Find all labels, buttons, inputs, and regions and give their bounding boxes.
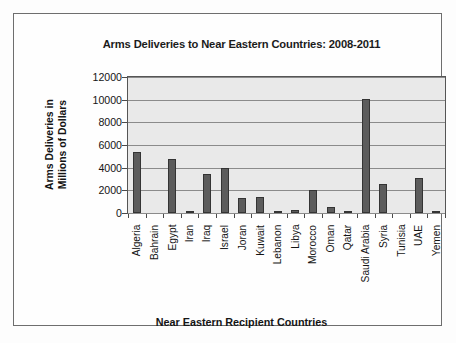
x-tick-label: Libya [287,219,305,301]
x-tick-mark [128,214,129,218]
x-tick-label: Israel [216,219,234,301]
x-tick-label: Morocco [304,219,322,301]
x-tick-label: Iran [181,219,199,301]
x-tick-label: Lebanon [269,219,287,301]
bar-slot [216,77,234,213]
x-tick-mark [198,214,199,218]
x-tick-mark [251,214,252,218]
x-tick-label-text: Qatar [343,224,354,249]
y-tick-label: 10000 [93,94,122,106]
bar-slot [181,77,199,213]
bar [133,152,141,213]
bar [379,184,387,213]
x-tick-mark [163,214,164,218]
bar-slot [287,77,305,213]
bar [415,178,423,213]
bar-slot [322,77,340,213]
x-tick-label-text: Algeria [131,225,142,257]
y-tick-label: 2000 [98,184,122,196]
x-tick-label-text: Yemen [431,224,442,255]
x-axis-tick-marks [128,214,445,218]
x-tick-mark [357,214,358,218]
x-tick-label-text: Tunisia [395,224,406,256]
x-tick-mark [427,214,428,218]
x-axis-title: Near Eastern Recipient Countries [27,316,456,328]
bar-slot [128,77,146,213]
bar [327,207,335,213]
x-tick-label: Yemen [427,219,445,301]
x-tick-label: Kuwait [251,219,269,301]
bar-slot [392,77,410,213]
bar [256,197,264,213]
bar [168,159,176,213]
y-tick-label: 12000 [93,71,122,83]
bar-slot [304,77,322,213]
x-tick-label-text: Saudi Arabia [360,225,371,283]
bar-slot [427,77,445,213]
bar-slot [357,77,375,213]
bar-slot [269,77,287,213]
bar-slot [339,77,357,213]
x-tick-mark [410,214,411,218]
y-tick-label: 8000 [98,116,122,128]
bar [203,174,211,213]
x-tick-label: Algeria [128,219,146,301]
x-tick-mark [304,214,305,218]
x-axis-tick-labels: AlgeriaBahrainEgyptIranIraqIsraelJoranKu… [128,219,445,301]
chart-title: Arms Deliveries to Near Eastern Countrie… [27,38,456,50]
x-tick-mark [375,214,376,218]
x-tick-mark [445,214,446,218]
bar [238,198,246,213]
x-tick-label: Iraq [198,219,216,301]
x-tick-label-text: Iraq [202,225,213,243]
y-axis-title-line-2: Millions of Dollars [56,100,67,189]
x-tick-label: Tunisia [392,219,410,301]
bar [344,211,352,213]
bar-slot [375,77,393,213]
x-tick-label: UAE [410,219,428,301]
bar [309,190,317,213]
x-tick-label: Joran [234,219,252,301]
x-tick-label-text: Oman [325,225,336,253]
x-tick-label-text: Bahrain [149,224,160,259]
x-tick-label-text: Israel [219,225,230,250]
y-axis-title: Arms Deliveries in Millions of Dollars [36,76,76,214]
bar-slot [234,77,252,213]
x-tick-label-text: Libya [290,224,301,248]
bar-slot [410,77,428,213]
y-tick-label: 6000 [98,139,122,151]
x-tick-label: Bahrain [146,219,164,301]
bar-series [128,77,445,213]
bar-slot [146,77,164,213]
x-tick-label-text: Egypt [167,224,178,250]
x-tick-label: Oman [322,219,340,301]
x-tick-mark [269,214,270,218]
bar [186,211,194,213]
x-tick-mark [392,214,393,218]
bar-slot [163,77,181,213]
x-tick-label-text: Morocco [307,224,318,263]
x-tick-label: Saudi Arabia [357,219,375,301]
x-tick-label-text: Joran [237,224,248,249]
x-tick-label: Syria [375,219,393,301]
x-tick-mark [181,214,182,218]
y-axis-title-line-1: Arms Deliveries in [43,100,54,191]
x-tick-label: Qatar [339,219,357,301]
x-tick-mark [146,214,147,218]
x-tick-label: Egypt [163,219,181,301]
x-tick-mark [234,214,235,218]
x-tick-mark [216,214,217,218]
x-tick-label-text: Iran [184,225,195,243]
x-tick-label-text: Lebanon [272,225,283,265]
bar [432,211,440,213]
x-tick-label-text: Syria [378,224,389,247]
bar-slot [198,77,216,213]
bar [221,168,229,213]
x-tick-mark [287,214,288,218]
chart-frame: Arms Deliveries to Near Eastern Countrie… [13,13,442,326]
bar [362,99,370,213]
y-tick-label: 4000 [98,162,122,174]
bar-slot [251,77,269,213]
bar [291,210,299,213]
y-axis-tick-labels: 120001000080006000400020000 [74,76,122,214]
